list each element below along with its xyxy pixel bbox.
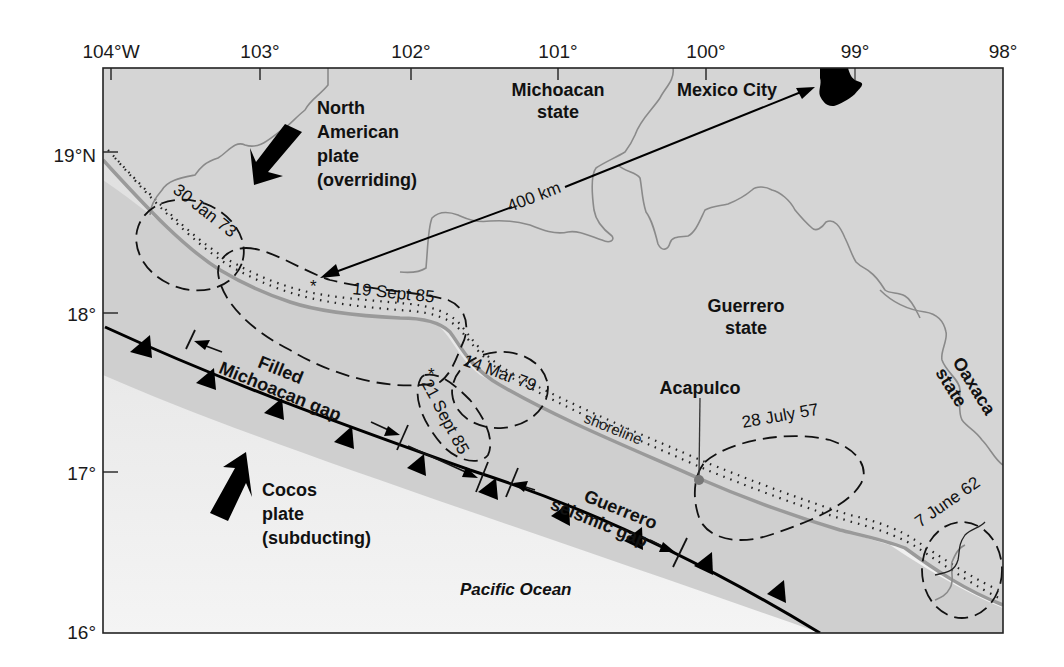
lon-tick-103: 103° (240, 41, 279, 62)
guerrero-state-label-line2: state (725, 318, 767, 338)
pacific-ocean-label: Pacific Ocean (460, 580, 572, 599)
acapulco-label: Acapulco (659, 378, 740, 398)
michoacan-state-label-line2: state (537, 102, 579, 122)
lon-tick-102: 102° (391, 41, 430, 62)
lat-tick-19: 19°N (54, 145, 96, 166)
guerrero-state-label-line1: Guerrero (707, 296, 784, 316)
longitude-axis: 104°W 103° 102° 101° 100° 99° 98° (82, 41, 1017, 62)
map-figure: 104°W 103° 102° 101° 100° 99° 98° 19°N 1… (0, 0, 1064, 667)
lat-tick-18: 18° (67, 304, 96, 325)
lon-tick-99: 99° (841, 41, 870, 62)
svg-text:Cocos: Cocos (262, 480, 317, 500)
svg-text:North: North (317, 98, 365, 118)
lon-tick-104: 104°W (82, 41, 139, 62)
svg-text:American: American (317, 122, 399, 142)
svg-text:(overriding): (overriding) (317, 170, 417, 190)
svg-text:plate: plate (317, 146, 359, 166)
lon-tick-98: 98° (989, 41, 1018, 62)
lon-tick-101: 101° (538, 41, 577, 62)
svg-text:plate: plate (262, 504, 304, 524)
michoacan-state-label-line1: Michoacan (511, 80, 604, 100)
latitude-axis: 19°N 18° 17° 16° (54, 145, 96, 643)
lat-tick-16: 16° (67, 622, 96, 643)
acapulco-dot (694, 475, 704, 485)
lon-tick-100: 100° (686, 41, 725, 62)
mexico-city-label: Mexico City (677, 80, 777, 100)
svg-text:(subducting): (subducting) (262, 528, 371, 548)
epicenter-star-icon: * (310, 277, 317, 296)
lat-tick-17: 17° (67, 463, 96, 484)
